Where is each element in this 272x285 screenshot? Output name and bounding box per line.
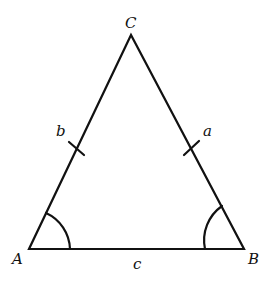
angle-arc-B (204, 206, 222, 249)
side-label-b: b (56, 122, 66, 140)
angle-arc-A (46, 213, 70, 249)
vertex-label-B: B (247, 250, 259, 268)
side-label-c: c (133, 255, 142, 273)
vertex-label-A: A (10, 250, 23, 268)
side-label-a: a (203, 122, 212, 140)
tick-mark-side-a (184, 141, 199, 155)
tick-mark-side-b (69, 142, 84, 155)
vertex-label-C: C (125, 14, 137, 32)
triangle-diagram: C b a A c B (0, 0, 272, 285)
